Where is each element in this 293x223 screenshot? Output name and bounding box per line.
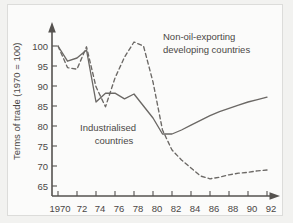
y-axis-title: Terms of trade (1970 = 100) — [11, 43, 22, 161]
x-tick-label-72: 72 — [77, 203, 88, 214]
annotation-industrialised-line-1: Industrialised — [80, 122, 136, 133]
x-tick-label-1970: 1970 — [49, 203, 70, 214]
y-tick-label-90: 90 — [37, 81, 48, 92]
x-tick-label-76: 76 — [114, 203, 125, 214]
x-tick-label-88: 88 — [228, 203, 239, 214]
y-axis-arrow — [48, 22, 56, 33]
x-tick-label-78: 78 — [133, 203, 144, 214]
y-tick-label-100: 100 — [32, 41, 48, 52]
annotation-non-oil-exporting-line-1: Non-oil-exporting — [163, 31, 235, 42]
x-tick-label-82: 82 — [171, 203, 182, 214]
terms-of-trade-line-chart: 65 70 75 80 85 90 95 100 Terms of trade … — [0, 0, 293, 223]
annotation-non-oil-exporting: Non-oil-exporting developing countries — [163, 31, 250, 55]
chart-figure: 65 70 75 80 85 90 95 100 Terms of trade … — [0, 0, 293, 223]
y-tick-label-85: 85 — [37, 101, 48, 112]
x-axis-arrow — [270, 192, 281, 200]
annotation-non-oil-exporting-line-2: developing countries — [163, 44, 250, 55]
y-tick-label-75: 75 — [37, 141, 48, 152]
y-tick-label-80: 80 — [37, 121, 48, 132]
x-tick-label-84: 84 — [190, 203, 201, 214]
y-tick-label-70: 70 — [37, 161, 48, 172]
x-axis-tick-labels: 1970 72 74 76 78 80 82 84 86 88 90 92 — [49, 203, 276, 214]
x-tick-label-92: 92 — [266, 203, 277, 214]
annotation-industrialised: Industrialised countries — [80, 122, 136, 146]
x-tick-label-86: 86 — [209, 203, 220, 214]
y-tick-label-65: 65 — [37, 181, 48, 192]
x-tick-label-90: 90 — [247, 203, 258, 214]
x-tick-label-74: 74 — [95, 203, 106, 214]
annotation-industrialised-line-2: countries — [95, 135, 134, 146]
y-tick-label-95: 95 — [37, 61, 48, 72]
x-tick-label-80: 80 — [152, 203, 163, 214]
y-axis-tick-labels: 65 70 75 80 85 90 95 100 — [32, 41, 48, 192]
